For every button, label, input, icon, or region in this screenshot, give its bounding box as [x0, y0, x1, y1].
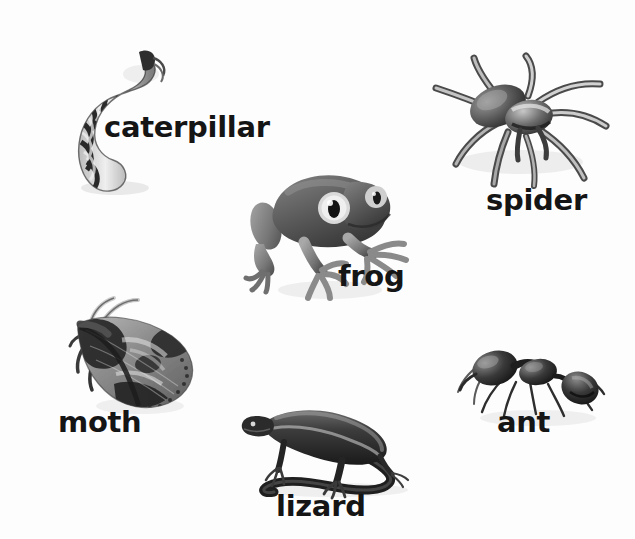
vocabulary-label-lizard: lizard [276, 492, 366, 521]
vocabulary-label-spider: spider [486, 186, 587, 215]
vocabulary-label-frog: frog [338, 262, 404, 291]
vocabulary-page: caterpillar [0, 0, 635, 539]
lizard-photo [238, 398, 420, 500]
spider-photo [416, 44, 616, 194]
vocabulary-label-ant: ant [497, 408, 550, 437]
vocabulary-label-moth: moth [58, 408, 141, 437]
vocabulary-label-caterpillar: caterpillar [104, 113, 270, 142]
